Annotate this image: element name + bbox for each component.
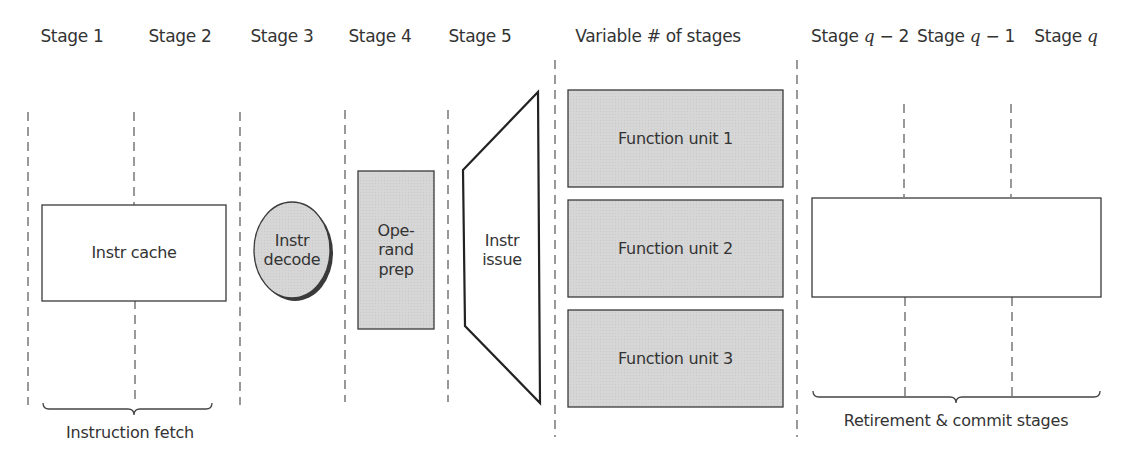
operand-prep-label: Ope- rand prep bbox=[358, 171, 434, 329]
operand-prep-line-2: rand bbox=[378, 240, 413, 259]
operand-prep-line-1: Ope- bbox=[377, 221, 414, 240]
retirement-commit-label: Retirement & commit stages bbox=[844, 411, 1069, 430]
function-unit-2-label: Function unit 2 bbox=[568, 200, 783, 297]
function-unit-1-label: Function unit 1 bbox=[568, 90, 783, 187]
instr-decode-label: Instr decode bbox=[254, 202, 330, 298]
instr-issue-label: Instr issue bbox=[466, 200, 538, 300]
retirement-box bbox=[812, 198, 1101, 297]
retirement-commit-brace bbox=[813, 391, 1100, 403]
instr-cache-label: Instr cache bbox=[42, 205, 226, 301]
instruction-fetch-brace bbox=[43, 403, 212, 415]
instr-issue-line-1: Instr bbox=[485, 231, 520, 250]
operand-prep-line-3: prep bbox=[378, 260, 413, 279]
function-unit-3-label: Function unit 3 bbox=[568, 310, 783, 407]
instr-decode-line-2: decode bbox=[264, 250, 321, 269]
instr-decode-line-1: Instr bbox=[275, 231, 310, 250]
instr-issue-line-2: issue bbox=[482, 250, 522, 269]
instruction-fetch-label: Instruction fetch bbox=[66, 423, 194, 442]
